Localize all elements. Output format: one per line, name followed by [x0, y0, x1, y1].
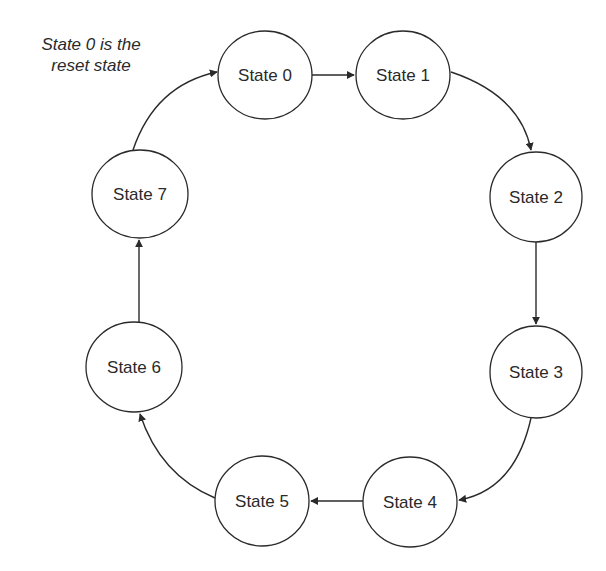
state-6-label: State 6 — [107, 358, 161, 377]
state-6-node: State 6 — [86, 322, 182, 412]
state-2-label: State 2 — [509, 188, 563, 207]
transition-5-6 — [140, 414, 215, 498]
state-3-label: State 3 — [509, 363, 563, 382]
state-3-node: State 3 — [490, 326, 582, 418]
state-5-label: State 5 — [235, 492, 289, 511]
state-7-label: State 7 — [113, 185, 167, 204]
state-diagram: State 0 is the reset state — [0, 0, 606, 571]
state-5-node: State 5 — [215, 456, 309, 546]
state-1-node: State 1 — [356, 31, 450, 119]
transition-3-4 — [459, 418, 531, 500]
state-0-node: State 0 — [218, 31, 312, 119]
state-1-label: State 1 — [376, 66, 430, 85]
state-4-label: State 4 — [383, 493, 437, 512]
state-2-node: State 2 — [490, 152, 582, 242]
state-0-label: State 0 — [238, 66, 292, 85]
diagram-svg: State 0 State 1 State 2 State 3 State 4 … — [0, 0, 606, 571]
transition-1-2 — [451, 72, 531, 150]
transition-7-0 — [133, 72, 217, 150]
state-4-node: State 4 — [363, 457, 457, 547]
state-7-node: State 7 — [92, 150, 188, 238]
